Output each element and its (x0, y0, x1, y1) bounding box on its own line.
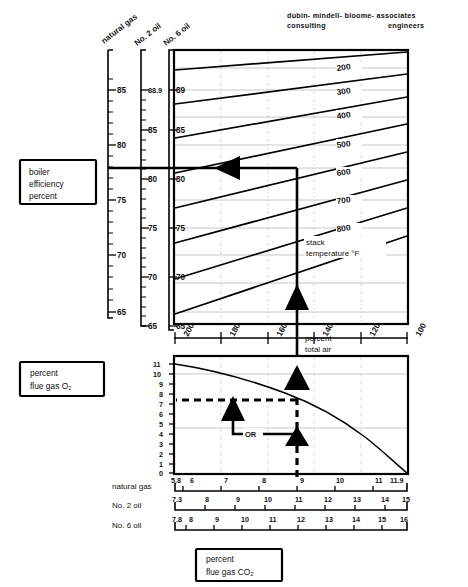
co2-no6-tick-13: 13 (325, 515, 333, 524)
co2-no6-tick-9: 9 (215, 515, 219, 524)
curve-label-400: 400 (336, 109, 351, 121)
efficiency-ng-tick-75: 75 (117, 196, 127, 205)
co2-no2-tick-8: 8 (205, 495, 209, 504)
co2-no6-tick-16: 16 (400, 515, 408, 524)
co2-ng-tick-5-8: 5.8 (171, 476, 181, 485)
o2-tick-0: 0 (159, 469, 163, 478)
stack-temperature-annotation: stack temperature °F (304, 236, 386, 258)
efficiency-no2-tick-70: 70 (148, 273, 158, 282)
co2-no6-tick-11: 11 (269, 515, 277, 524)
curve-label-500: 500 (336, 138, 351, 150)
o2-tick-7: 7 (159, 400, 163, 409)
flue-gas-co2-box-line1: percent (206, 554, 235, 564)
curve-label-700: 700 (336, 194, 351, 206)
co2-no2-tick-7-3: 7.3 (172, 495, 182, 504)
co2-no2-tick-13: 13 (353, 495, 361, 504)
co2-ng-tick-11: 11 (375, 476, 383, 485)
flue-gas-o2-box: percent flue gas O₂ (20, 362, 104, 396)
co2-ng-tick-11-9: 11.9 (390, 476, 404, 485)
or-label: OR (245, 430, 257, 439)
co2-no2-tick-9: 9 (236, 495, 240, 504)
co2-axis-no6-oil-label: No. 6 oil (112, 521, 142, 530)
o2-tick-2: 2 (159, 450, 163, 459)
co2-no2-tick-10: 10 (264, 495, 272, 504)
efficiency-no6-tick-80: 80 (176, 175, 186, 184)
efficiency-no2-tick-75: 75 (148, 224, 158, 233)
boiler-efficiency-box-line1: boiler (29, 167, 50, 177)
curve-label-300: 300 (336, 85, 351, 97)
o2-tick-11: 11 (153, 360, 161, 369)
flue-gas-co2-box: percent flue gas CO₂ (196, 549, 282, 581)
curve-label-600: 600 (336, 166, 351, 178)
co2-no6-tick-7-8: 7.8 (172, 515, 182, 524)
efficiency-no6-tick-85: 85 (176, 126, 186, 135)
efficiency-no2-tick-80: 80 (148, 175, 158, 184)
co2-no2-tick-14: 14 (381, 495, 389, 504)
efficiency-no6-tick-70: 70 (176, 273, 186, 282)
co2-no6-tick-10: 10 (241, 515, 249, 524)
chart-page: dubin- mindell- bloome- associates consu… (0, 0, 468, 587)
psychrometric-efficiency-chart: dubin- mindell- bloome- associates consu… (0, 0, 468, 587)
company-role-consulting: consulting (287, 21, 326, 30)
o2-tick-10: 10 (153, 370, 161, 379)
efficiency-no6-tick-89: 89 (176, 86, 186, 95)
o2-tick-6: 6 (159, 410, 163, 419)
o2-tick-9: 9 (159, 380, 163, 389)
stack-temp-annot-line2: temperature °F (306, 249, 360, 258)
boiler-efficiency-box-line2: efficiency (29, 179, 65, 189)
o2-tick-5: 5 (159, 420, 163, 429)
flue-gas-o2-box-line1: percent (30, 368, 59, 378)
co2-ng-tick-8: 8 (262, 476, 266, 485)
efficiency-ng-tick-85: 85 (117, 86, 127, 95)
efficiency-ng-tick-65: 65 (117, 308, 127, 317)
curve-label-800: 800 (336, 222, 351, 234)
flue-gas-co2-box-line2: flue gas CO₂ (206, 567, 253, 577)
co2-no6-tick-8: 8 (189, 515, 193, 524)
boiler-efficiency-box: boiler efficiency percent (20, 160, 96, 204)
co2-ng-tick-9: 9 (300, 476, 304, 485)
efficiency-no2-tick-65: 65 (148, 322, 158, 331)
efficiency-no2-tick-85: 85 (148, 126, 158, 135)
o2-tick-1: 1 (159, 460, 163, 469)
efficiency-no6-tick-75: 75 (176, 224, 186, 233)
o2-tick-3: 3 (159, 440, 163, 449)
stack-temp-annot-line1: stack (306, 238, 326, 247)
o2-tick-8: 8 (159, 390, 163, 399)
boiler-efficiency-box-line3: percent (29, 191, 58, 201)
co2-no2-tick-12: 12 (324, 495, 332, 504)
percent-total-air-label-line2: total air (305, 345, 332, 354)
co2-ng-tick-10: 10 (336, 476, 344, 485)
co2-no6-tick-15: 15 (378, 515, 386, 524)
co2-ng-tick-6: 6 (190, 476, 194, 485)
co2-no6-tick-14: 14 (352, 515, 360, 524)
efficiency-ng-tick-70: 70 (117, 251, 127, 260)
co2-no6-tick-12: 12 (297, 515, 305, 524)
curve-label-200: 200 (336, 61, 351, 73)
co2-no2-tick-11: 11 (295, 495, 303, 504)
co2-axis-no2-oil-label: No. 2 oil (112, 501, 142, 510)
efficiency-no2-tick-889: 88.9 (148, 86, 162, 95)
company-name: dubin- mindell- bloome- associates (287, 11, 416, 20)
company-role-engineers: engineers (388, 21, 424, 30)
co2-axis-natural-gas-label: natural gas (112, 482, 152, 491)
efficiency-ng-tick-80: 80 (117, 141, 127, 150)
flue-gas-o2-box-line2: flue gas O₂ (30, 381, 71, 391)
co2-no2-tick-15: 15 (402, 495, 410, 504)
percent-total-air-label-line1: percent (305, 334, 332, 343)
co2-ng-tick-7: 7 (224, 476, 228, 485)
o2-tick-4: 4 (159, 430, 163, 439)
